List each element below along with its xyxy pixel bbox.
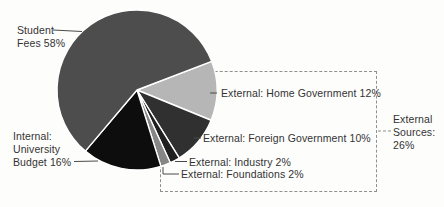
callout-student-fees: Student Fees 58%	[17, 24, 65, 50]
pie-chart-figure: Student Fees 58% Internal: University Bu…	[0, 0, 444, 207]
callout-external-foreign-government: External: Foreign Government 10%	[203, 132, 371, 145]
callout-external-foundations: External: Foundations 2%	[181, 168, 304, 181]
pie-slices	[57, 10, 217, 170]
leader-line-university-budget	[74, 161, 98, 162]
leader-line-foundations	[163, 167, 179, 174]
callout-external-home-government: External: Home Government 12%	[221, 87, 381, 100]
callout-external-sources-total: External Sources: 26%	[393, 113, 435, 152]
callout-internal-university-budget: Internal: University Budget 16%	[13, 130, 71, 169]
